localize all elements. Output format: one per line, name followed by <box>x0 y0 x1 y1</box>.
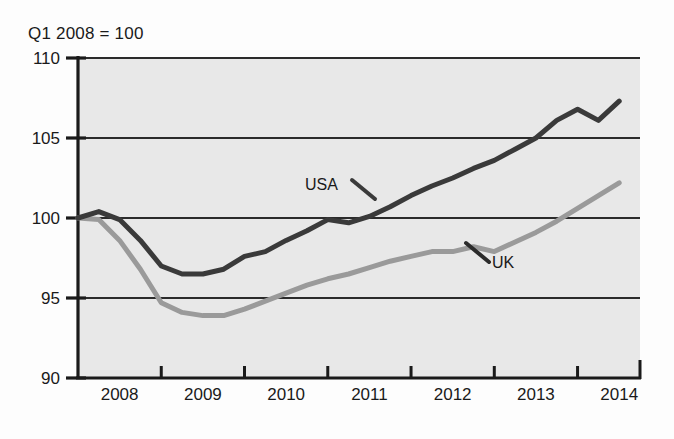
y-tick-label-95: 95 <box>41 289 60 308</box>
series-label-usa: USA <box>305 176 338 193</box>
y-tick-label-90: 90 <box>41 369 60 388</box>
x-tick-label-2011: 2011 <box>351 385 388 404</box>
line-chart-plot: 110 105 100 95 90 2008200920102011201220… <box>0 0 674 439</box>
x-tick-label-2009: 2009 <box>184 385 222 404</box>
y-tick-label-110: 110 <box>33 49 60 68</box>
chart-figure: Q1 2008 = 100 110 105 100 95 90 <box>0 0 674 439</box>
x-tick-label-2013: 2013 <box>517 385 555 404</box>
x-tick-labels: 2008200920102011201220132014 <box>101 385 638 404</box>
x-tick-label-2008: 2008 <box>101 385 139 404</box>
x-tick-label-2010: 2010 <box>267 385 305 404</box>
series-label-uk: UK <box>492 254 515 271</box>
x-tick-label-2014: 2014 <box>600 385 638 404</box>
y-tick-label-105: 105 <box>32 129 60 148</box>
y-tick-label-100: 100 <box>32 209 60 228</box>
x-tick-label-2012: 2012 <box>434 385 472 404</box>
